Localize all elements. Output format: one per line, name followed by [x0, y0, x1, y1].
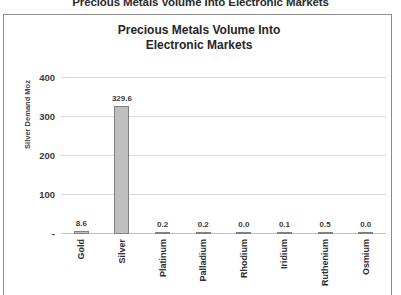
category-slot: Ruthenium: [305, 237, 346, 295]
y-tick-label-400: 400: [39, 72, 55, 83]
category-label-gold: Gold: [76, 239, 86, 260]
category-label-iridium: Iridium: [279, 239, 289, 269]
bar-slot: 0.2: [196, 59, 211, 234]
bar-slot: 0.1: [277, 59, 292, 234]
bar-value-label-silver: 329.6: [112, 94, 132, 103]
bar-value-label-ruthenium: 0.5: [320, 220, 331, 229]
y-tick-label-0: -: [52, 228, 55, 239]
bar-value-label-osmium: 0.0: [360, 220, 371, 229]
category-slot: Osmium: [345, 237, 386, 295]
bar-slot: 8.6: [74, 59, 89, 234]
y-axis-title: Silver Demand Moz: [23, 70, 32, 160]
bar-ruthenium[interactable]: [318, 232, 333, 234]
clipped-header-strip: Precious Metals Volume Into Electronic M…: [0, 0, 401, 13]
bar-slot: 329.6: [114, 59, 129, 234]
category-label-ruthenium: Ruthenium: [320, 239, 330, 286]
bar-silver[interactable]: [114, 106, 129, 234]
x-axis-category-labels: GoldSilverPlatinumPalladiumRhodiumIridiu…: [61, 237, 386, 295]
clipped-header-text: Precious Metals Volume Into Electronic M…: [0, 0, 401, 8]
chart-title-line-1: Precious Metals Volume Into: [118, 23, 280, 37]
bar-slot: 0.0: [236, 59, 251, 234]
bar-value-label-iridium: 0.1: [279, 220, 290, 229]
bar-value-label-rhodium: 0.0: [238, 220, 249, 229]
category-slot: Silver: [102, 237, 143, 295]
bar-slot: 0.5: [318, 59, 333, 234]
bar-slot: 0.0: [358, 59, 373, 234]
bar-gold[interactable]: [74, 231, 89, 234]
bar-osmium[interactable]: [358, 232, 373, 234]
category-slot: Gold: [61, 237, 102, 295]
y-tick-label-300: 300: [39, 111, 55, 122]
chart-title-line-2: Electronic Markets: [44, 38, 354, 53]
y-tick-label-100: 100: [39, 189, 55, 200]
bar-value-label-gold: 8.6: [76, 219, 87, 228]
chart-title: Precious Metals Volume Into Electronic M…: [44, 23, 354, 53]
bar-value-label-palladium: 0.2: [198, 220, 209, 229]
category-label-silver: Silver: [117, 239, 127, 264]
bar-palladium[interactable]: [196, 232, 211, 234]
category-label-palladium: Palladium: [198, 239, 208, 282]
chart-frame: Precious Metals Volume Into Electronic M…: [3, 14, 392, 295]
bar-iridium[interactable]: [277, 232, 292, 234]
y-tick-label-200: 200: [39, 150, 55, 161]
category-slot: Platinum: [142, 237, 183, 295]
category-label-osmium: Osmium: [361, 239, 371, 275]
category-slot: Palladium: [183, 237, 224, 295]
bar-value-label-platinum: 0.2: [157, 220, 168, 229]
category-slot: Iridium: [264, 237, 305, 295]
category-label-rhodium: Rhodium: [239, 239, 249, 278]
bar-rhodium[interactable]: [236, 232, 251, 234]
bars-layer: 8.6329.60.20.20.00.10.50.0: [61, 59, 386, 234]
category-label-platinum: Platinum: [158, 239, 168, 277]
bar-platinum[interactable]: [155, 232, 170, 234]
category-slot: Rhodium: [224, 237, 265, 295]
bar-slot: 0.2: [155, 59, 170, 234]
